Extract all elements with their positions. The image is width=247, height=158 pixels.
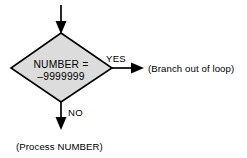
yes-target-note: (Branch out of loop) <box>148 63 234 74</box>
entry-connector <box>56 5 67 34</box>
yes-label: YES <box>106 53 126 64</box>
yes-connector <box>112 63 144 74</box>
no-label: NO <box>68 107 83 118</box>
decision-text-line2: –9999999 <box>37 71 84 82</box>
no-connector <box>56 102 67 130</box>
decision-text-line1: NUMBER = <box>33 59 88 70</box>
yes-arrow-head-icon <box>131 63 144 74</box>
flowchart-canvas: NUMBER = –9999999 YES (Branch out of loo… <box>0 0 247 158</box>
no-arrow-head-icon <box>56 117 67 130</box>
no-target-note: (Process NUMBER) <box>16 141 103 152</box>
